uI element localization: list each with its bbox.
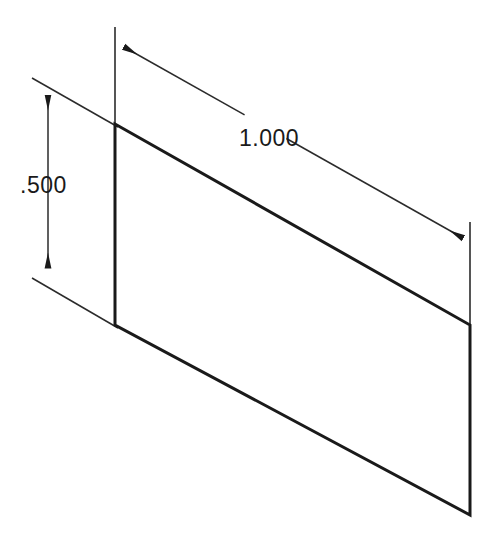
cad-drawing-svg: 1.000 .500 [0,0,497,544]
plate-parallelogram [115,124,470,515]
dimension-label-width: 1.000 [239,125,299,151]
height-dimension-extension-lines [32,78,118,328]
extension-line-bottom-sloped [32,278,118,328]
part-outline [115,124,470,515]
width-dimension-extension-lines [115,27,470,340]
dimension-label-height: .500 [20,172,67,198]
extension-line-top-sloped [32,78,118,127]
dimension-line-segment-right [286,139,463,239]
dimension-line-segment-left [124,47,245,115]
cad-drawing-canvas: 1.000 .500 [0,0,497,544]
